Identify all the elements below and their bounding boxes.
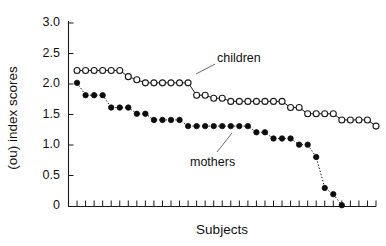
data-point bbox=[245, 123, 250, 128]
data-point bbox=[185, 80, 191, 86]
y-tick-label-0.5: 0.5 bbox=[43, 168, 60, 182]
data-point bbox=[262, 130, 267, 135]
data-point bbox=[279, 98, 285, 104]
data-point bbox=[177, 80, 183, 86]
data-point bbox=[185, 123, 190, 128]
data-point bbox=[91, 67, 97, 73]
children-data-points bbox=[74, 67, 379, 129]
data-point bbox=[91, 93, 96, 98]
y-tick-label-1.0: 1.0 bbox=[43, 137, 60, 151]
data-point bbox=[143, 111, 148, 116]
data-point bbox=[330, 111, 336, 117]
data-point bbox=[211, 95, 217, 101]
data-point bbox=[237, 123, 242, 128]
y-tick-labels: 3.0 2.5 2.0 1.5 1.0 0.5 0 bbox=[43, 15, 60, 212]
data-point bbox=[168, 80, 174, 86]
data-point bbox=[83, 93, 88, 98]
data-point bbox=[322, 185, 327, 190]
children-series-line bbox=[77, 70, 376, 126]
data-point bbox=[322, 111, 328, 117]
data-point bbox=[134, 111, 139, 116]
data-point bbox=[296, 105, 302, 111]
data-point bbox=[177, 117, 182, 122]
mothers-label: mothers bbox=[190, 155, 235, 169]
data-point bbox=[83, 67, 89, 73]
data-point bbox=[339, 117, 345, 123]
y-tick-label-3.0: 3.0 bbox=[43, 15, 60, 29]
y-axis-title: (ou) index scores bbox=[5, 66, 20, 170]
data-point bbox=[347, 117, 353, 123]
children-leader-line bbox=[196, 64, 215, 74]
mothers-annotation: mothers bbox=[190, 133, 235, 169]
y-tick-label-2.5: 2.5 bbox=[43, 46, 60, 60]
line-chart-canvas: (ou) index scores 3.0 2.5 2.0 1.5 1.0 0.… bbox=[0, 0, 386, 246]
data-point bbox=[373, 123, 379, 129]
data-point bbox=[74, 67, 80, 73]
data-point bbox=[160, 117, 165, 122]
data-point bbox=[305, 142, 310, 147]
data-point bbox=[314, 154, 319, 159]
data-point bbox=[271, 136, 276, 141]
data-point bbox=[220, 123, 225, 128]
data-point bbox=[236, 98, 242, 104]
data-point bbox=[202, 92, 208, 98]
data-point bbox=[109, 105, 114, 110]
y-tick-label-2.0: 2.0 bbox=[43, 76, 60, 90]
data-point bbox=[364, 117, 370, 123]
x-tick-marks bbox=[77, 201, 376, 207]
data-point bbox=[305, 111, 311, 117]
data-point bbox=[228, 98, 234, 104]
data-point bbox=[117, 105, 122, 110]
data-point bbox=[142, 80, 148, 86]
data-point bbox=[331, 191, 336, 196]
data-point bbox=[356, 117, 362, 123]
data-point bbox=[211, 123, 216, 128]
data-point bbox=[219, 95, 225, 101]
data-point bbox=[108, 67, 114, 73]
data-point bbox=[74, 80, 79, 85]
data-point bbox=[151, 117, 156, 122]
data-point bbox=[151, 80, 157, 86]
data-point bbox=[271, 98, 277, 104]
y-tick-label-0: 0 bbox=[53, 198, 60, 212]
data-point bbox=[194, 123, 199, 128]
data-point bbox=[125, 74, 131, 80]
data-point bbox=[245, 98, 251, 104]
children-annotation: children bbox=[196, 51, 261, 74]
data-point bbox=[228, 123, 233, 128]
data-point bbox=[117, 67, 123, 73]
y-tick-label-1.5: 1.5 bbox=[43, 107, 60, 121]
y-tick-marks bbox=[69, 23, 74, 176]
data-point bbox=[288, 105, 294, 111]
data-point bbox=[194, 92, 200, 98]
data-point bbox=[159, 80, 165, 86]
data-point bbox=[254, 130, 259, 135]
data-point bbox=[100, 67, 106, 73]
data-point bbox=[202, 123, 207, 128]
data-point bbox=[262, 98, 268, 104]
children-label: children bbox=[217, 51, 261, 65]
data-point bbox=[126, 105, 131, 110]
data-point bbox=[296, 142, 301, 147]
mothers-leader-line bbox=[217, 133, 232, 152]
data-point bbox=[339, 203, 344, 208]
data-point bbox=[253, 98, 259, 104]
data-point bbox=[134, 77, 140, 83]
x-axis-title: Subjects bbox=[196, 222, 248, 237]
data-point bbox=[168, 117, 173, 122]
mothers-data-points bbox=[74, 80, 344, 208]
chart-figure: (ou) index scores 3.0 2.5 2.0 1.5 1.0 0.… bbox=[0, 0, 386, 246]
data-point bbox=[100, 93, 105, 98]
data-point bbox=[279, 136, 284, 141]
data-point bbox=[288, 136, 293, 141]
data-point bbox=[313, 111, 319, 117]
